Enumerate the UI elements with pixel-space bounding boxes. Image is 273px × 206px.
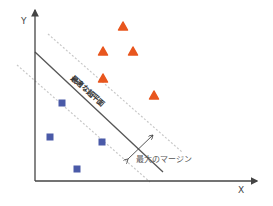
diagram-canvas (0, 0, 273, 206)
triangle-point (99, 47, 108, 55)
margin-label: 最大のマージン (136, 153, 192, 164)
triangle-point (129, 47, 138, 55)
triangle-point (119, 22, 128, 30)
svm-diagram: Y X 最適な超平面 最大のマージン (0, 0, 273, 206)
square-point (59, 100, 66, 107)
upper-margin-line (48, 34, 182, 152)
x-axis-label: X (238, 185, 244, 195)
y-axis-label: Y (21, 16, 27, 26)
triangle-point (150, 91, 159, 99)
square-point (47, 134, 54, 141)
triangle-point (99, 74, 108, 82)
square-point (99, 139, 106, 146)
square-point (74, 166, 81, 173)
